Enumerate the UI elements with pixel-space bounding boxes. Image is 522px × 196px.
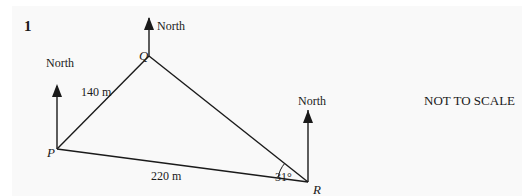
point-label-r: R — [312, 182, 321, 196]
arrowhead-icon — [303, 110, 313, 123]
side-length-pq: 140 m — [81, 85, 112, 99]
point-label-p: P — [46, 145, 55, 160]
side-pr — [57, 149, 308, 182]
question-number: 1 — [24, 18, 32, 34]
north-arrow-p — [52, 84, 62, 149]
bearing-diagram: 1 North North North P Q R 140 m 220 m — [0, 0, 522, 196]
arrowhead-icon — [144, 17, 154, 30]
north-label-q: North — [157, 19, 185, 33]
arrowhead-icon — [52, 84, 62, 97]
page: 1 North North North P Q R 140 m 220 m — [0, 0, 522, 196]
side-length-pr: 220 m — [151, 169, 182, 183]
point-label-q: Q — [139, 48, 149, 63]
north-label-p: North — [46, 56, 74, 70]
not-to-scale-note: NOT TO SCALE — [424, 93, 515, 108]
angle-label-r: 31° — [275, 170, 292, 184]
north-label-r: North — [298, 94, 326, 108]
side-qr — [149, 56, 308, 182]
north-arrow-r — [303, 110, 313, 182]
